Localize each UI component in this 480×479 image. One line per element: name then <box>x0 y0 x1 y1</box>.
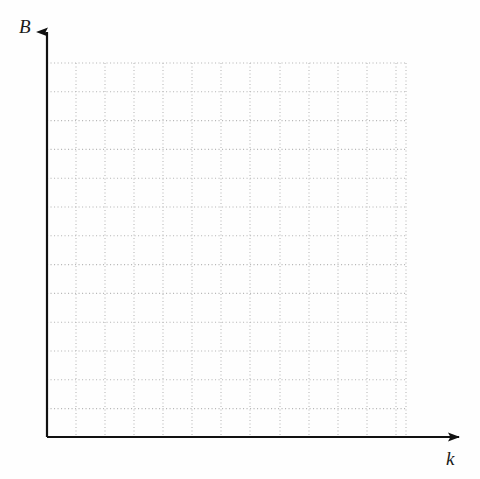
chart-figure: B k <box>0 0 480 479</box>
y-axis-label: B <box>19 17 31 36</box>
plot-area <box>0 0 480 479</box>
grid-vertical-lines <box>76 63 406 437</box>
x-axis-label: k <box>446 449 454 468</box>
grid-horizontal-lines <box>47 63 406 409</box>
